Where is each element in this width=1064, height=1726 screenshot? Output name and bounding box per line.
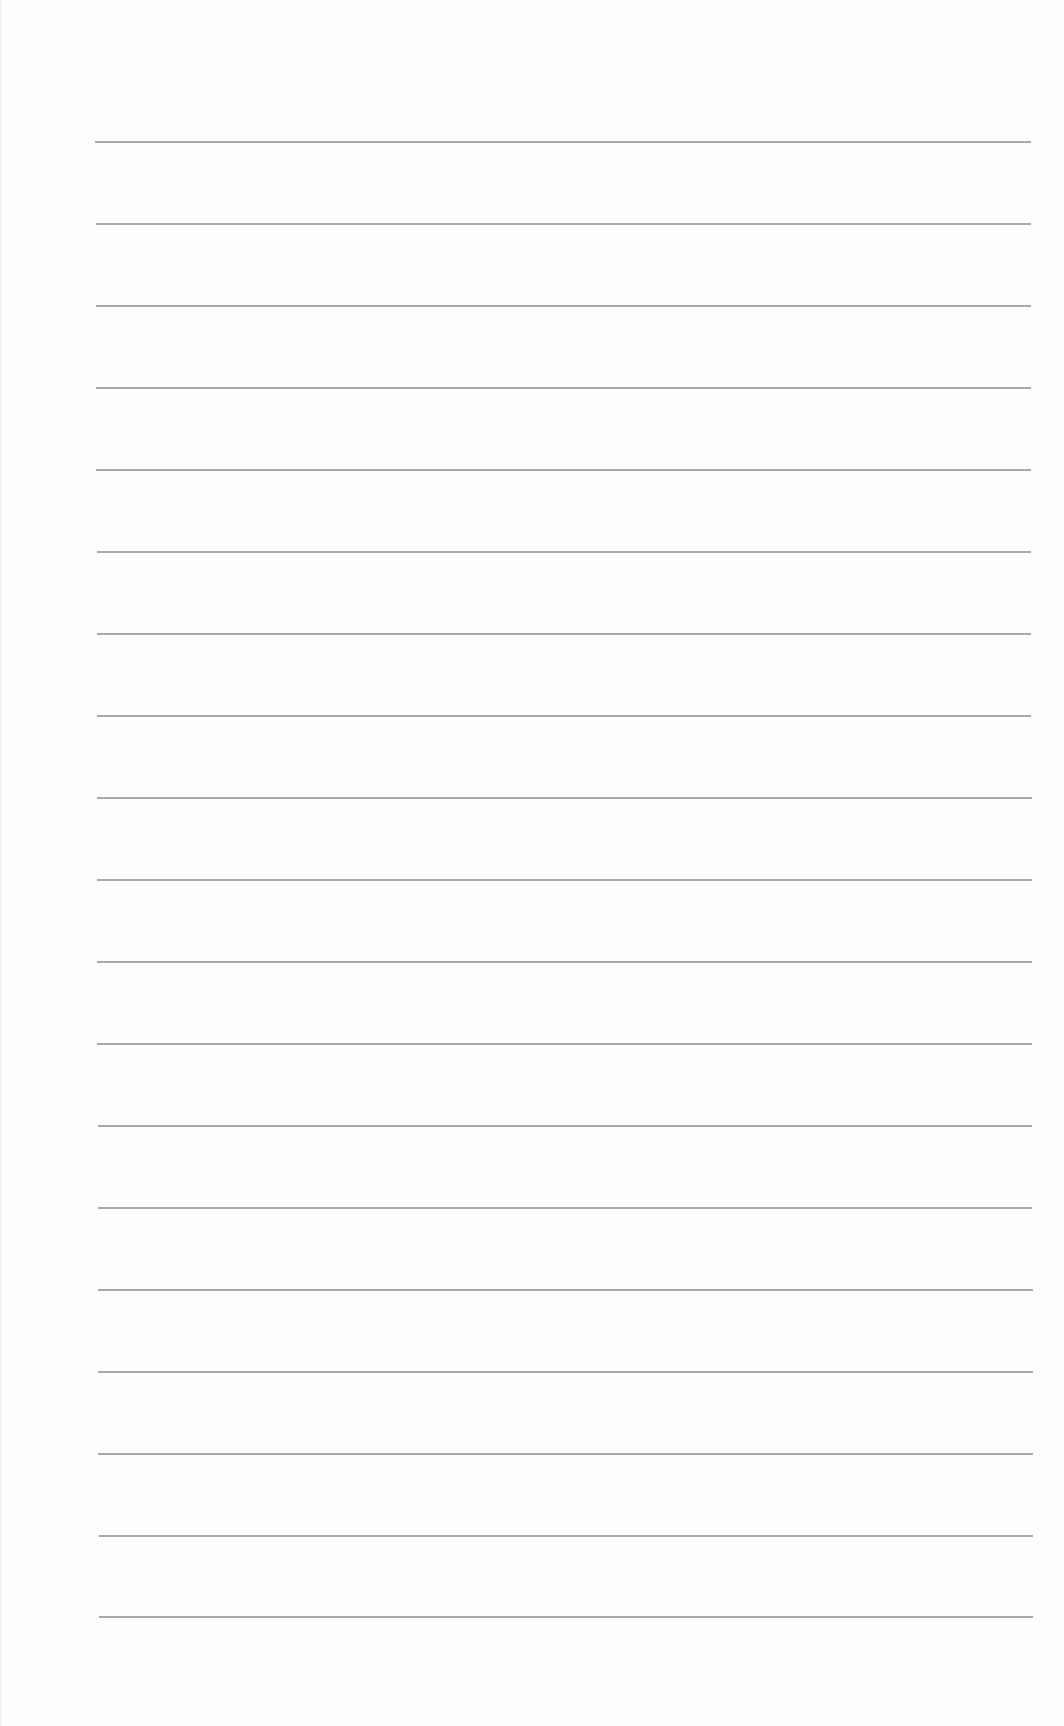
lined-paper-page xyxy=(0,0,1064,1726)
ruled-line xyxy=(97,633,1031,635)
ruled-line xyxy=(98,1453,1033,1455)
ruled-line xyxy=(95,141,1031,143)
ruled-line xyxy=(96,387,1031,389)
ruled-line xyxy=(97,715,1031,717)
ruled-line xyxy=(98,1371,1033,1373)
ruled-line xyxy=(99,1616,1033,1618)
ruled-line xyxy=(97,961,1032,963)
ruled-line xyxy=(98,1125,1032,1127)
ruled-line xyxy=(97,1043,1032,1045)
ruled-line xyxy=(98,1207,1032,1209)
ruled-line xyxy=(97,797,1032,799)
ruled-line xyxy=(98,1289,1033,1291)
ruled-line xyxy=(96,305,1031,307)
ruled-line xyxy=(97,879,1032,881)
ruled-line xyxy=(96,223,1031,225)
ruled-line xyxy=(99,1535,1033,1537)
page-edge xyxy=(0,0,3,1726)
ruled-line xyxy=(96,469,1031,471)
ruled-line xyxy=(97,551,1031,553)
